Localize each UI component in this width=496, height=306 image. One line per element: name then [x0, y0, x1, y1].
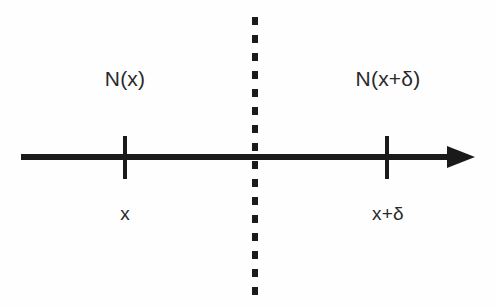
point-label-x-plus-delta: x+δ [372, 203, 404, 225]
point-label-x: x [120, 203, 130, 225]
vertical-dotted-divider [252, 17, 258, 297]
tick-mark-x [123, 136, 127, 179]
axis-arrow-icon [447, 146, 475, 168]
region-label-right: N(x+δ) [356, 67, 421, 91]
region-label-left: N(x) [105, 67, 145, 91]
tick-mark-x-plus-delta [385, 136, 389, 179]
diagram-canvas: N(x) N(x+δ) x x+δ [0, 0, 496, 306]
